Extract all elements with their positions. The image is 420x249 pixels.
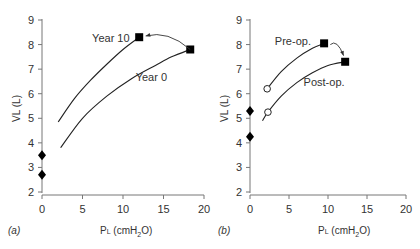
y-tick-label: 5 (28, 112, 34, 124)
y-tick-label: 9 (236, 14, 242, 26)
x-tick-label: 5 (286, 203, 292, 215)
y-tick-label: 7 (236, 63, 242, 75)
series-label: Year 0 (136, 71, 167, 83)
x-tick-label: 0 (247, 203, 253, 215)
open-circle-marker (264, 86, 271, 93)
x-tick-label: 10 (117, 203, 129, 215)
diamond-marker (38, 150, 46, 160)
curve-year-0 (61, 49, 191, 147)
y-tick-label: 4 (28, 137, 34, 149)
series-label: Post-op. (304, 76, 345, 88)
arrow-head-icon (340, 51, 344, 56)
y-tick-label: 6 (28, 88, 34, 100)
x-tick-label: 20 (400, 203, 412, 215)
square-marker (135, 33, 143, 41)
arrow-line (330, 43, 343, 56)
y-tick-label: 2 (28, 186, 34, 198)
y-axis-label: VL (L) (219, 95, 230, 122)
series-label: Pre-op. (275, 35, 311, 47)
y-tick-label: 2 (236, 186, 242, 198)
x-tick-label: 15 (157, 203, 169, 215)
square-marker (320, 39, 328, 47)
x-label-part: O) (359, 225, 370, 236)
x-axis-label: PL (cmH2O) (100, 225, 152, 238)
y-tick-label: 4 (236, 137, 242, 149)
y-tick-label: 9 (28, 14, 34, 26)
y-tick-label: 8 (236, 39, 242, 51)
x-tick-label: 10 (322, 203, 334, 215)
open-circle-marker (265, 109, 272, 116)
x-tick-label: 15 (361, 203, 373, 215)
panel-b: 2345678905101520VL (L)PL (cmH2O)(b)Pre-o… (218, 14, 412, 238)
x-tick-label: 5 (79, 203, 85, 215)
y-tick-label: 3 (28, 161, 34, 173)
y-axis-label: VL (L) (11, 95, 22, 122)
diamond-marker (246, 132, 254, 142)
panel-label: (a) (8, 225, 20, 236)
x-tick-label: 0 (39, 203, 45, 215)
panel-label: (b) (218, 225, 230, 236)
x-label-part: (cmH (329, 225, 356, 236)
diamond-marker (246, 106, 254, 116)
diamond-marker (38, 170, 46, 180)
x-label-part: O) (141, 225, 152, 236)
panel-a: 2345678905101520VL (L)PL (cmH2O)(a)Year … (8, 14, 210, 238)
x-tick-label: 20 (198, 203, 210, 215)
series-label: Year 10 (92, 32, 130, 44)
y-tick-label: 8 (28, 39, 34, 51)
x-axis-label: PL (cmH2O) (318, 225, 370, 238)
curve-year-10 (58, 37, 139, 122)
y-tick-label: 7 (28, 63, 34, 75)
curve-post-op- (262, 62, 345, 121)
y-tick-label: 3 (236, 161, 242, 173)
x-label-part: (cmH (111, 225, 138, 236)
y-tick-label: 6 (236, 88, 242, 100)
square-marker (341, 58, 349, 66)
y-tick-label: 5 (236, 112, 242, 124)
figure: 2345678905101520VL (L)PL (cmH2O)(a)Year … (0, 0, 420, 249)
arrow-line (146, 35, 191, 50)
